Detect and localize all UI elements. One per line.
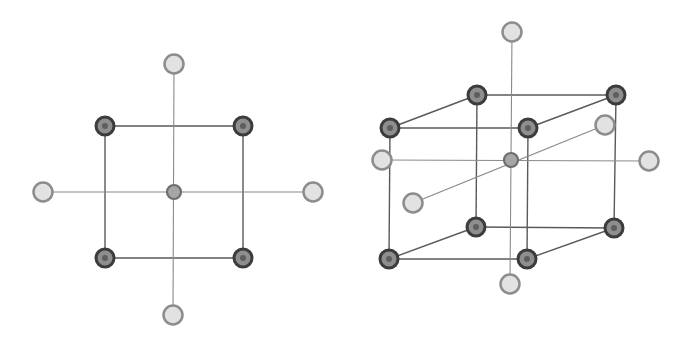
dark-atom-node [605,219,623,237]
dark-atom-node [467,218,485,236]
lattice-diagram-canvas [0,0,694,343]
lattice-diagram [0,0,694,343]
bond-line [390,95,477,128]
light-atom-node [501,275,520,294]
dark-atom-node [518,250,536,268]
bond-line [389,227,476,259]
center-atom-node [167,185,181,199]
dark-atom-node [607,86,625,104]
dark-atom-node [234,117,252,135]
center-atom-node [504,153,518,167]
light-atom-node [373,151,392,170]
dark-atom-node [519,119,537,137]
light-atom-node [34,183,53,202]
light-atom-node [503,23,522,42]
light-atom-node [164,306,183,325]
bond-line [389,128,390,259]
dark-atom-node [96,117,114,135]
bond-line [527,228,614,259]
bond-line [476,95,477,227]
light-atom-node [640,152,659,171]
dark-atom-node [234,249,252,267]
light-atom-node [404,194,423,213]
light-atom-node [596,116,615,135]
bond-line [527,128,528,259]
nodes-layer [34,23,659,325]
bond-line [476,227,614,228]
bond-line [614,95,616,228]
square-2d-nodes [34,55,323,325]
edges-layer [43,32,649,315]
dark-atom-node [96,249,114,267]
dark-atom-node [468,86,486,104]
dark-atom-node [380,250,398,268]
light-atom-node [165,55,184,74]
dark-atom-node [381,119,399,137]
light-atom-node [304,183,323,202]
